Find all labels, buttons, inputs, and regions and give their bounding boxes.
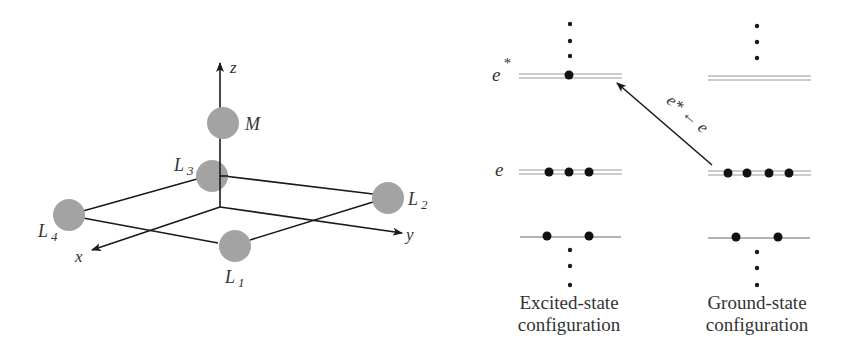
metal-label: M bbox=[244, 114, 261, 134]
geometry-diagram: z x y M L 3 L 4 L 1 L 2 bbox=[37, 58, 428, 290]
axes bbox=[92, 63, 402, 250]
svg-text:L: L bbox=[224, 267, 235, 287]
svg-text:*: * bbox=[503, 55, 511, 71]
x-axis-label: x bbox=[74, 247, 83, 266]
svg-text:L: L bbox=[173, 155, 184, 175]
electron bbox=[565, 71, 574, 80]
svg-text:3: 3 bbox=[186, 163, 194, 178]
ground-caption-line2: configuration bbox=[706, 314, 809, 335]
y-axis bbox=[220, 207, 402, 233]
transition-label: e* ← e bbox=[663, 91, 713, 138]
y-axis-label: y bbox=[404, 225, 414, 244]
svg-text:4: 4 bbox=[51, 229, 58, 244]
ligand-label-3: L 3 bbox=[173, 155, 194, 178]
metal-atom bbox=[207, 107, 239, 139]
continuation-dots-bottom bbox=[755, 250, 759, 287]
svg-text:e: e bbox=[492, 64, 500, 85]
continuation-dots-top bbox=[568, 22, 572, 58]
electrons-lower bbox=[732, 233, 783, 242]
continuation-dots-bottom bbox=[568, 248, 572, 287]
svg-text:2: 2 bbox=[421, 197, 428, 212]
energy-diagram: e * e Excited- bbox=[492, 22, 811, 335]
excited-caption-line1: Excited-state bbox=[519, 292, 618, 313]
level-label-e: e bbox=[495, 159, 503, 180]
ligand-atom-4 bbox=[53, 199, 85, 231]
x-axis bbox=[92, 207, 220, 250]
z-axis-label: z bbox=[229, 58, 237, 77]
ligand-atom-2 bbox=[372, 182, 404, 214]
level-e bbox=[708, 171, 811, 175]
atoms bbox=[53, 107, 404, 262]
ground-state-column: Ground-state configuration bbox=[706, 24, 811, 335]
svg-text:1: 1 bbox=[238, 275, 245, 290]
level-label-e-star: e * bbox=[492, 55, 511, 85]
level-e-star bbox=[708, 76, 811, 80]
figure-canvas: z x y M L 3 L 4 L 1 L 2 e * e bbox=[0, 0, 843, 353]
ligand-label-1: L 1 bbox=[224, 267, 245, 290]
excited-state-column: Excited-state configuration bbox=[518, 22, 622, 335]
electrons-e bbox=[545, 168, 594, 177]
ligand-label-4: L 4 bbox=[37, 221, 58, 244]
electrons-e bbox=[724, 169, 794, 178]
svg-text:L: L bbox=[37, 221, 48, 241]
svg-text:L: L bbox=[407, 189, 418, 209]
excited-caption-line2: configuration bbox=[518, 314, 621, 335]
electrons-lower bbox=[543, 232, 594, 241]
ground-caption-line1: Ground-state bbox=[707, 292, 806, 313]
ligand-label-2: L 2 bbox=[407, 189, 428, 212]
continuation-dots-top bbox=[755, 24, 759, 60]
ligand-atom-1 bbox=[219, 230, 251, 262]
